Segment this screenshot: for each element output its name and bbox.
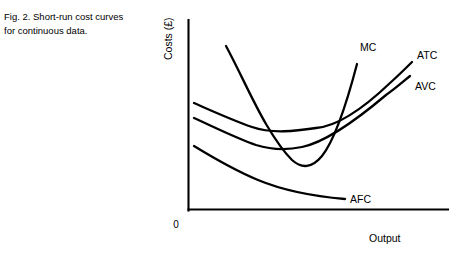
- avc-curve-label: AVC: [415, 80, 436, 92]
- average-total-cost-curve: [194, 62, 412, 131]
- mc-curve-label: MC: [360, 41, 377, 53]
- y-axis-title: Costs (£): [162, 17, 174, 60]
- origin-label: 0: [173, 219, 179, 230]
- figure-container: Fig. 2. Short-run cost curves for contin…: [0, 0, 461, 259]
- cost-curves-plot: Costs (£) 0 Output MC ATC AVC AFC: [0, 0, 461, 259]
- x-axis-title: Output: [369, 232, 401, 244]
- afc-curve-label: AFC: [350, 193, 371, 205]
- average-variable-cost-curve: [194, 76, 410, 149]
- atc-curve-label: ATC: [417, 49, 438, 61]
